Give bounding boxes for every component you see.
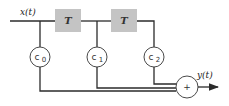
sum-bus-1 [97, 67, 176, 88]
coefficient-node-0: c 0 [30, 47, 50, 67]
coef-1-base: c [92, 52, 97, 62]
coef-1-sub: 1 [99, 56, 103, 64]
coef-2-sub: 2 [156, 56, 160, 64]
tap-line-2 [137, 21, 154, 47]
svg-text:c: c [35, 52, 40, 62]
coefficient-node-2: c 2 [144, 47, 164, 67]
coef-2-base: c [149, 52, 154, 62]
coef-0-sub: 0 [42, 56, 46, 64]
input-label: x(t) [20, 7, 36, 17]
coef-0-base: c [35, 52, 40, 62]
svg-text:2: 2 [156, 56, 160, 64]
summer-node: + [176, 76, 198, 98]
svg-text:1: 1 [99, 56, 103, 64]
fir-filter-diagram: x(t) T T c 0 c 1 c 2 + y(t) [0, 0, 229, 106]
sum-bus-2 [154, 67, 177, 84]
svg-text:0: 0 [42, 56, 46, 64]
summer-plus: + [183, 82, 191, 92]
coefficient-node-1: c 1 [87, 47, 107, 67]
svg-text:c: c [149, 52, 154, 62]
output-label: y(t) [196, 70, 213, 80]
svg-text:c: c [92, 52, 97, 62]
